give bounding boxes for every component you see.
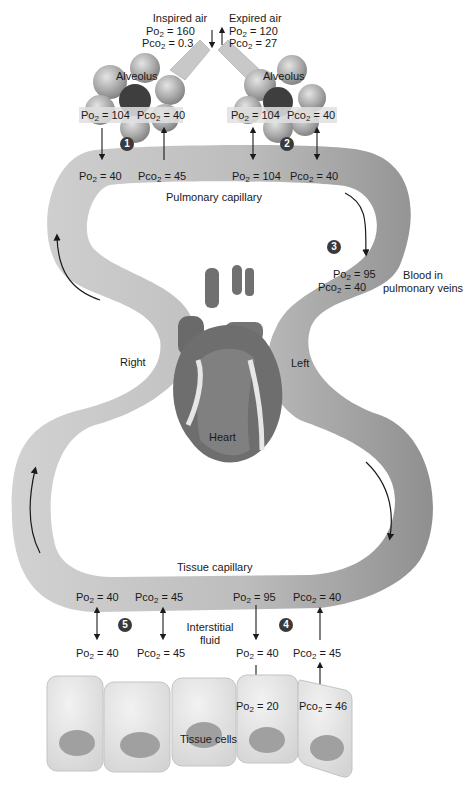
interstitial-right-pco2: Pco2 = 45 — [293, 647, 341, 659]
pulm-cap-left-po2: Po2 = 40 — [79, 170, 122, 182]
interstitial-right-po2: Po2 = 40 — [236, 647, 279, 659]
pulm-cap-right-po2: Po2 = 104 — [232, 170, 281, 182]
right-side-label: Right — [120, 356, 146, 368]
tissue-cap-right-pco2: Pco2 = 40 — [293, 591, 341, 603]
expired-air-title: Expired air — [229, 12, 282, 24]
step-badge-3: 3 — [327, 240, 341, 254]
pulmonary-capillary-label: Pulmonary capillary — [166, 191, 262, 203]
inspired-pco2: Pco2 = 0.3 — [142, 37, 193, 49]
pulm-vein-pco2: Pco2 = 40 — [318, 281, 366, 293]
left-side-label: Left — [291, 357, 309, 369]
tissue-capillary-label: Tissue capillary — [177, 561, 252, 573]
alveolus-left-label: Alveolus — [116, 70, 158, 82]
inspired-air-title: Inspired air — [140, 12, 220, 24]
alveolus-left-graphic — [85, 53, 185, 143]
step-badge-4: 4 — [279, 618, 293, 632]
alveolus-left-pco2: Pco2 = 40 — [137, 109, 185, 121]
pulm-vein-po2: Po2 = 95 — [333, 268, 376, 280]
alveolus-right-po2: Po2 = 104 — [231, 109, 280, 121]
heart-label: Heart — [209, 431, 236, 443]
step-badge-5: 5 — [118, 618, 132, 632]
pulm-cap-left-pco2: Pco2 = 45 — [138, 170, 186, 182]
tissue-cap-left-pco2: Pco2 = 45 — [135, 591, 183, 603]
step-badge-1: 1 — [120, 137, 134, 151]
tissue-cell-pco2: Pco2 = 46 — [299, 700, 347, 712]
alveolus-left-po2: Po2 = 104 — [81, 109, 130, 121]
alveolus-right-label: Alveolus — [263, 70, 305, 82]
interstitial-left-po2: Po2 = 40 — [76, 647, 119, 659]
inspired-po2: Po2 = 160 — [146, 25, 195, 37]
expired-pco2: Pco2 = 27 — [229, 37, 277, 49]
alveolus-right-pco2: Pco2 = 40 — [287, 109, 335, 121]
tissue-cells-graphic — [47, 675, 352, 777]
pulm-vein-label-2: pulmonary veins — [383, 282, 463, 294]
interstitial-label-2: fluid — [180, 634, 240, 646]
tissue-cells-label: Tissue cells — [180, 733, 237, 745]
pulm-vein-label-1: Blood in — [383, 269, 463, 281]
tissue-cap-left-po2: Po2 = 40 — [76, 591, 119, 603]
interstitial-label-1: Interstitial — [180, 621, 240, 633]
interstitial-left-pco2: Pco2 = 45 — [137, 647, 185, 659]
pulm-cap-right-pco2: Pco2 = 40 — [290, 170, 338, 182]
tissue-cell-po2: Po2 = 20 — [236, 700, 279, 712]
step-badge-2: 2 — [280, 137, 294, 151]
expired-po2: Po2 = 120 — [229, 25, 278, 37]
tissue-cap-right-po2: Po2 = 95 — [233, 591, 276, 603]
